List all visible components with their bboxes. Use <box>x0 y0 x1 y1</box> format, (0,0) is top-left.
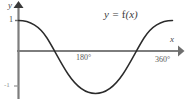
function-curve <box>19 21 173 94</box>
function-argument: (x) <box>126 8 138 20</box>
function-equation-label: y = f(x) <box>104 9 138 20</box>
function-equals: = <box>109 8 122 20</box>
graph-canvas <box>0 0 188 101</box>
x-axis-arrowhead <box>178 46 185 57</box>
x-tick-label-180-degrees: 180° <box>76 54 91 62</box>
x-tick-label-360-degrees: 360° <box>155 56 170 64</box>
y-tick-label-one: 1 <box>9 16 13 24</box>
y-axis-arrowhead <box>14 1 24 8</box>
y-axis-label: y <box>8 1 12 10</box>
function-graph-figure: y x 1 -1 180° 360° y = f(x) <box>0 0 188 101</box>
y-tick-label-negative-one: -1 <box>4 82 10 89</box>
x-axis-label: x <box>170 35 174 44</box>
